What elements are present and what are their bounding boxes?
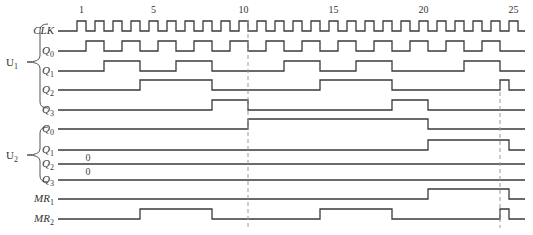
clock-tick-1: 1 <box>79 4 84 15</box>
zero-note-1: 0 <box>86 152 91 163</box>
timing-diagram-canvas: 1510152025 U1U2 CLKQ0Q1Q2Q3Q0Q1Q2Q3MR1MR… <box>0 0 533 235</box>
clock-tick-10: 10 <box>239 4 249 15</box>
group-label-u1: U1 <box>6 56 18 71</box>
waveform-mr1 <box>58 189 525 199</box>
waveform-u2-q0 <box>58 119 525 129</box>
clock-tick-labels: 1510152025 <box>79 4 519 15</box>
signal-label-u1-q2: Q2 <box>42 83 54 98</box>
waveform-u1-q1 <box>58 61 525 71</box>
signal-label-u2-q3: Q3 <box>42 173 54 188</box>
waveform-u1-clk <box>58 21 525 31</box>
signal-labels: CLKQ0Q1Q2Q3Q0Q1Q2Q3MR1MR2 <box>33 24 55 227</box>
waveform-u1-q2 <box>58 80 525 90</box>
waveforms <box>58 21 525 219</box>
clock-tick-20: 20 <box>419 4 429 15</box>
signal-label-mr1: MR1 <box>33 192 54 207</box>
signal-label-u2-q1: Q1 <box>42 143 54 158</box>
group-label-u2: U2 <box>6 149 18 164</box>
signal-label-mr2: MR2 <box>33 212 54 227</box>
signal-label-u2-q0: Q0 <box>42 122 54 137</box>
signal-label-u1-clk: CLK <box>33 24 54 36</box>
zero-note-2: 0 <box>86 166 91 177</box>
signal-label-u1-q0: Q0 <box>42 44 54 59</box>
clock-tick-15: 15 <box>329 4 339 15</box>
clock-tick-25: 25 <box>509 4 519 15</box>
waveform-u1-q0 <box>58 41 525 51</box>
timing-diagram: 1510152025 U1U2 CLKQ0Q1Q2Q3Q0Q1Q2Q3MR1MR… <box>0 0 533 235</box>
signal-label-u1-q3: Q3 <box>42 103 54 118</box>
waveform-u2-q1 <box>58 140 525 150</box>
signal-label-u2-q2: Q2 <box>42 157 54 172</box>
waveform-u1-q3 <box>58 100 525 110</box>
clock-tick-5: 5 <box>151 4 156 15</box>
waveform-mr2 <box>58 209 525 219</box>
signal-label-u1-q1: Q1 <box>42 64 54 79</box>
